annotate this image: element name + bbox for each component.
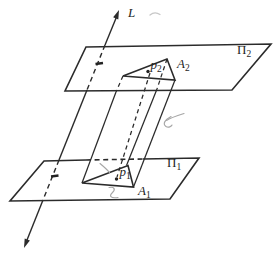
math-figure: L Π2 A2 p2 Π1 A1 p1 xyxy=(0,0,277,263)
line-L-mid-segment xyxy=(59,90,87,160)
intersection-tick-pi1 xyxy=(51,176,59,177)
label-line-L: L xyxy=(127,5,135,20)
point-p1-dot xyxy=(115,177,118,180)
line-L-top-segment xyxy=(105,17,117,45)
arrow-down-icon xyxy=(24,239,30,248)
label-pi1-sub: 1 xyxy=(176,162,181,172)
label-pi1-base: Π xyxy=(167,155,176,170)
line-L-bottom-segment xyxy=(27,200,43,240)
line-L-hidden-in-pi1 xyxy=(43,160,59,200)
label-a2-base: A xyxy=(176,56,185,71)
segment-p2-p1-hidden xyxy=(117,73,150,177)
label-a2-sub: 2 xyxy=(185,63,190,73)
pencil-smudge-top xyxy=(150,13,160,15)
label-a1-base: A xyxy=(137,183,146,198)
intersection-tick-pi2 xyxy=(96,63,104,64)
pencil-stroke-lower-left xyxy=(100,164,110,173)
label-point-p2: p2 xyxy=(150,57,163,74)
label-triangle-a1: A1 xyxy=(137,183,151,200)
pencil-squiggle-below-a1 xyxy=(109,187,118,197)
label-pi2-base: Π xyxy=(237,42,246,57)
line-L-hidden-in-pi2 xyxy=(87,45,105,90)
label-triangle-a2: A2 xyxy=(176,56,190,73)
point-p2-dot xyxy=(146,70,149,73)
label-p1-sub: 1 xyxy=(126,171,131,181)
pencil-marks xyxy=(100,13,184,198)
label-pi2-sub: 2 xyxy=(246,49,251,59)
prism-left-edge-hidden xyxy=(116,76,123,92)
line-L xyxy=(24,10,119,248)
label-a1-sub: 1 xyxy=(146,190,151,200)
plane-pi1-hidden-edge xyxy=(86,159,143,160)
prism-left-edge xyxy=(82,92,116,183)
label-plane-pi1: Π1 xyxy=(167,155,181,172)
arrow-up-icon xyxy=(113,10,119,19)
label-point-p1: p1 xyxy=(119,164,132,181)
figure-canvas: L Π2 A2 p2 Π1 A1 p1 xyxy=(0,0,277,263)
label-p2-sub: 2 xyxy=(157,64,162,74)
prism-back-edge xyxy=(127,89,158,166)
